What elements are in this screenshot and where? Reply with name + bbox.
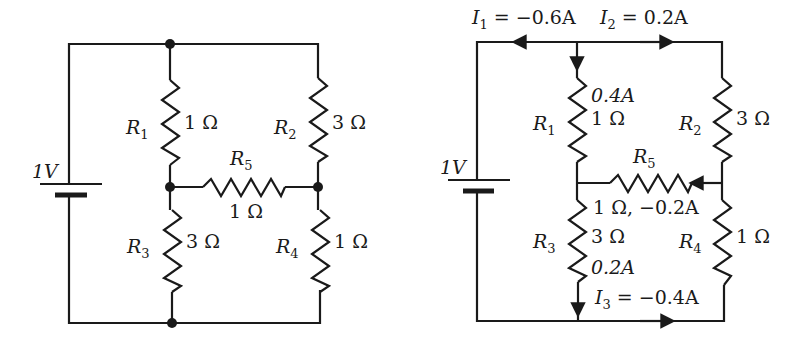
original-circuit: 1V R1 1 Ω R2 3 Ω R5 1 Ω R3 3 Ω R4 1 Ω bbox=[32, 39, 368, 328]
resistor-r1-icon bbox=[162, 80, 179, 165]
resistor-r3-icon bbox=[569, 200, 586, 282]
r1-value: 1 Ω bbox=[591, 107, 625, 129]
junction-dot bbox=[165, 39, 175, 49]
r4-label: R4 bbox=[678, 230, 702, 256]
r3-current: 0.2A bbox=[591, 256, 635, 278]
resistor-r1-icon bbox=[569, 78, 586, 162]
r3-label: R3 bbox=[126, 235, 150, 261]
resistor-r5-icon bbox=[203, 179, 285, 196]
r5-label: R5 bbox=[632, 145, 656, 171]
battery-label: 1V bbox=[32, 160, 60, 182]
i1-label: I1 = −0.6A bbox=[471, 6, 576, 32]
r1-label: R1 bbox=[532, 112, 556, 138]
r2-label: R2 bbox=[678, 112, 702, 138]
wire-bottom bbox=[69, 194, 320, 323]
i3-label: I3 = −0.4A bbox=[594, 286, 699, 312]
resistor-r4-icon bbox=[312, 210, 329, 292]
battery-icon bbox=[448, 180, 510, 191]
r4-value: 1 Ω bbox=[334, 230, 368, 252]
r1-label: R1 bbox=[125, 116, 149, 142]
resistor-r5-icon bbox=[610, 175, 692, 192]
r5-value: 1 Ω, −0.2A bbox=[593, 196, 699, 218]
resistor-r2-icon bbox=[714, 78, 731, 162]
junction-dot bbox=[313, 182, 323, 192]
r2-label: R2 bbox=[273, 116, 297, 142]
resistor-r4-icon bbox=[714, 200, 731, 285]
battery-label: 1V bbox=[440, 156, 468, 178]
r5-value: 1 Ω bbox=[229, 200, 263, 222]
r1-current: 0.4A bbox=[591, 84, 635, 106]
i2-label: I2 = 0.2A bbox=[599, 6, 688, 32]
r3-value: 3 Ω bbox=[186, 230, 220, 252]
circuit-diagrams: 1V R1 1 Ω R2 3 Ω R5 1 Ω R3 3 Ω R4 1 Ω bbox=[0, 0, 809, 354]
r4-value: 1 Ω bbox=[736, 225, 770, 247]
r3-value: 3 Ω bbox=[591, 225, 625, 247]
junction-dot bbox=[165, 182, 175, 192]
r2-value: 3 Ω bbox=[736, 107, 770, 129]
solved-circuit: 1V I1 = −0.6A I2 = 0.2A I3 = −0.4A 0.4A … bbox=[440, 6, 770, 321]
r2-value: 3 Ω bbox=[332, 111, 366, 133]
resistor-r3-icon bbox=[164, 210, 181, 292]
r4-label: R4 bbox=[275, 235, 299, 261]
r1-value: 1 Ω bbox=[184, 111, 218, 133]
junction-dot bbox=[167, 318, 177, 328]
resistor-r2-icon bbox=[310, 78, 327, 162]
r5-label: R5 bbox=[229, 147, 253, 173]
r3-label: R3 bbox=[532, 230, 556, 256]
battery-icon bbox=[40, 184, 102, 195]
